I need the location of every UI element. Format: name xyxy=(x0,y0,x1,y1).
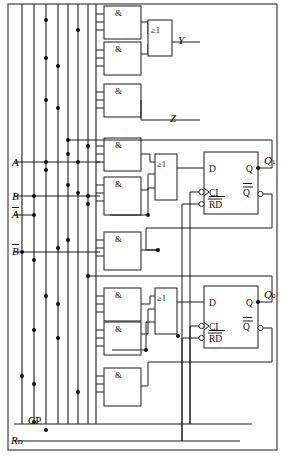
junction-dot xyxy=(86,202,90,206)
svg-text:&: & xyxy=(115,140,122,150)
input-label-RD: RD xyxy=(11,430,23,448)
svg-text:&: & xyxy=(115,234,122,244)
junction-dot xyxy=(44,168,48,172)
junction-dot xyxy=(66,238,70,242)
junction-dot xyxy=(32,213,36,217)
svg-text:Q: Q xyxy=(243,322,250,332)
output-label-Q0: Q0 xyxy=(264,284,275,302)
junction-dot xyxy=(44,98,48,102)
output-label-Y: Y xyxy=(178,30,184,48)
junction-dot xyxy=(156,248,160,252)
junction-dot xyxy=(20,250,24,254)
junction-dot xyxy=(44,160,48,164)
svg-text:&: & xyxy=(115,290,122,300)
and-gate-1-group: & xyxy=(96,6,148,39)
svg-text:≥1: ≥1 xyxy=(151,25,160,35)
junction-dot xyxy=(86,274,90,278)
and-gate-2-group: & xyxy=(96,42,148,75)
svg-text:D: D xyxy=(209,298,216,308)
junction-dot xyxy=(66,138,70,142)
svg-text:Q: Q xyxy=(246,164,253,174)
svg-text:&: & xyxy=(115,8,122,18)
ff0-rd-overbar xyxy=(209,330,225,331)
junction-dot xyxy=(44,294,48,298)
junction-dot xyxy=(44,428,48,432)
junction-dot xyxy=(76,28,80,32)
schematic-svg: & & ≥1 & & & xyxy=(0,0,285,457)
ff1-qbar-overbar xyxy=(243,183,252,184)
svg-text:≥1: ≥1 xyxy=(157,159,166,169)
svg-text:&: & xyxy=(115,86,122,96)
diagram-border xyxy=(8,4,277,450)
junction-dot xyxy=(86,144,90,148)
junction-dot xyxy=(32,382,36,386)
junction-dot xyxy=(76,191,80,195)
junction-dot xyxy=(32,258,36,262)
junction-dot xyxy=(66,152,70,156)
ff1-rd-overbar xyxy=(209,196,225,197)
svg-text:Q: Q xyxy=(243,188,250,198)
svg-text:RD: RD xyxy=(209,334,222,344)
junction-dot xyxy=(66,183,70,187)
svg-text:RD: RD xyxy=(209,200,222,210)
junction-dot xyxy=(56,302,60,306)
svg-text:&: & xyxy=(115,370,122,380)
ff0-qbar-overbar xyxy=(243,317,252,318)
input-label-A: A xyxy=(12,152,19,170)
junction-dot xyxy=(76,390,80,394)
junction-dot xyxy=(176,334,180,338)
svg-text:&: & xyxy=(115,44,122,54)
input-label-B: B xyxy=(12,186,19,204)
svg-text:Q: Q xyxy=(246,298,253,308)
junction-dot xyxy=(56,64,60,68)
junction-dot xyxy=(32,194,36,198)
output-label-Q1: Q1 xyxy=(264,150,275,168)
junction-dot xyxy=(146,213,150,217)
junction-dot xyxy=(56,246,60,250)
input-label-B-bar: B xyxy=(12,241,19,259)
svg-text:≥1: ≥1 xyxy=(157,293,166,303)
junction-dot xyxy=(20,374,24,378)
junction-dot xyxy=(144,348,148,352)
junction-dot xyxy=(32,328,36,332)
svg-text:D: D xyxy=(209,164,216,174)
junction-dot xyxy=(76,160,80,164)
output-label-Z: Z xyxy=(170,108,176,126)
svg-text:&: & xyxy=(115,179,122,189)
junction-dot xyxy=(44,56,48,60)
svg-text:&: & xyxy=(115,324,122,334)
input-label-CP: CP xyxy=(28,410,41,428)
junction-dot xyxy=(56,336,60,340)
junction-dot xyxy=(56,106,60,110)
junction-dot xyxy=(86,194,90,198)
logic-diagram-canvas: & & ≥1 & & & xyxy=(0,0,285,457)
input-label-A-bar: A xyxy=(12,204,19,222)
junction-dot xyxy=(44,18,48,22)
